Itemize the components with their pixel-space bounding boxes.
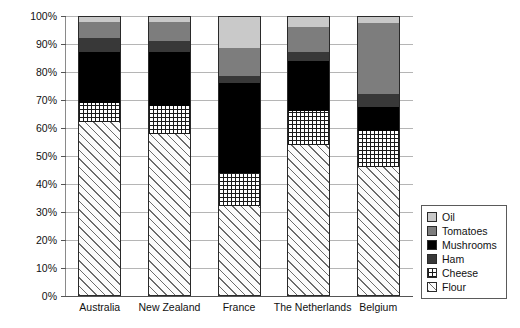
y-tick-label: 20% [11, 235, 57, 245]
y-tick-mark [61, 268, 66, 269]
legend-swatch-flour-icon [427, 282, 437, 292]
y-tick-label: 30% [11, 207, 57, 217]
legend-label: Oil [442, 212, 455, 222]
bar-belgium[interactable] [357, 16, 400, 296]
y-tick-mark [61, 156, 66, 157]
segment-flour[interactable] [218, 206, 261, 296]
legend-item-flour[interactable]: Flour [427, 280, 502, 294]
y-tick-mark [61, 100, 66, 101]
segment-ham[interactable] [218, 76, 261, 83]
y-tick-mark [61, 44, 66, 45]
x-label-belgium: Belgium [343, 301, 413, 313]
legend-label: Ham [442, 254, 464, 264]
legend-swatch-cheese-icon [427, 268, 437, 278]
segment-flour[interactable] [287, 145, 330, 296]
y-tick-label: 40% [11, 179, 57, 189]
segment-oil[interactable] [218, 16, 261, 48]
legend-label: Tomatoes [442, 226, 488, 236]
y-tick-label: 100% [11, 11, 57, 21]
legend-label: Flour [442, 282, 466, 292]
legend-item-cheese[interactable]: Cheese [427, 266, 502, 280]
y-tick-label: 0% [11, 291, 57, 301]
x-label-new-zealand: New Zealand [135, 301, 205, 313]
stacked-bar-chart: 0%10%20%30%40%50%60%70%80%90%100% Austra… [0, 0, 520, 328]
segment-flour[interactable] [148, 134, 191, 296]
bar-the-netherlands[interactable] [287, 16, 330, 296]
legend-label: Cheese [442, 268, 478, 278]
legend-item-mushrooms[interactable]: Mushrooms [427, 238, 502, 252]
segment-ham[interactable] [78, 38, 121, 52]
y-tick-label: 50% [11, 151, 57, 161]
y-tick-mark [61, 212, 66, 213]
segment-flour[interactable] [78, 122, 121, 296]
segment-cheese[interactable] [218, 173, 261, 207]
segment-mushrooms[interactable] [287, 61, 330, 111]
bar-new-zealand[interactable] [148, 16, 191, 296]
bar-australia[interactable] [78, 16, 121, 296]
y-tick-mark [61, 16, 66, 17]
segment-tomatoes[interactable] [218, 48, 261, 76]
legend-swatch-mushrooms-icon [427, 240, 437, 250]
segment-cheese[interactable] [148, 106, 191, 134]
segment-oil[interactable] [357, 16, 400, 23]
segment-mushrooms[interactable] [218, 83, 261, 173]
segment-cheese[interactable] [357, 131, 400, 167]
segment-ham[interactable] [287, 52, 330, 60]
legend-swatch-oil-icon [427, 212, 437, 222]
y-tick-mark [61, 240, 66, 241]
x-label-australia: Australia [65, 301, 135, 313]
segment-oil[interactable] [287, 16, 330, 27]
segment-ham[interactable] [148, 41, 191, 52]
segment-tomatoes[interactable] [148, 22, 191, 42]
legend-item-oil[interactable]: Oil [427, 210, 502, 224]
y-tick-mark [61, 184, 66, 185]
segment-mushrooms[interactable] [357, 107, 400, 131]
segment-tomatoes[interactable] [78, 22, 121, 39]
legend-swatch-tomatoes-icon [427, 226, 437, 236]
x-label-france: France [204, 301, 274, 313]
legend-item-ham[interactable]: Ham [427, 252, 502, 266]
y-tick-label: 60% [11, 123, 57, 133]
segment-tomatoes[interactable] [287, 27, 330, 52]
segment-tomatoes[interactable] [357, 23, 400, 94]
legend: OilTomatoesMushroomsHamCheeseFlour [421, 205, 507, 299]
segment-mushrooms[interactable] [78, 52, 121, 102]
segment-flour[interactable] [357, 167, 400, 296]
y-tick-label: 80% [11, 67, 57, 77]
bar-france[interactable] [218, 16, 261, 296]
y-tick-label: 10% [11, 263, 57, 273]
x-label-the-netherlands: The Netherlands [274, 301, 344, 313]
segment-cheese[interactable] [287, 111, 330, 145]
y-tick-label: 70% [11, 95, 57, 105]
segment-ham[interactable] [357, 94, 400, 107]
y-tick-label: 90% [11, 39, 57, 49]
legend-item-tomatoes[interactable]: Tomatoes [427, 224, 502, 238]
y-tick-mark [61, 128, 66, 129]
x-axis-line [65, 296, 413, 297]
segment-mushrooms[interactable] [148, 52, 191, 105]
segment-cheese[interactable] [78, 103, 121, 123]
legend-label: Mushrooms [442, 240, 497, 250]
legend-swatch-ham-icon [427, 254, 437, 264]
y-tick-mark [61, 72, 66, 73]
